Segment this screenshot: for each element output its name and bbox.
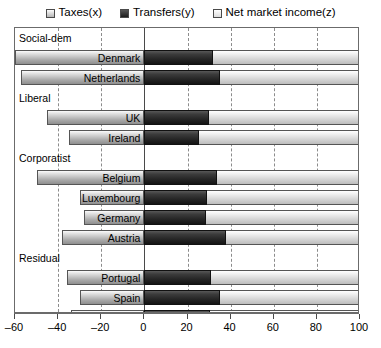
x-tick-label: 80 [310, 321, 322, 333]
x-axis: –60–40–20020406080100 [14, 313, 359, 315]
country-label: Luxembourg [82, 192, 140, 204]
bar-row: Spain [15, 288, 358, 308]
legend-label: Transfers(y) [133, 7, 195, 19]
x-tick--60 [14, 314, 15, 319]
country-label: Netherlands [84, 72, 141, 84]
legend-label: Net market income(z) [226, 7, 336, 19]
group-row-residual: Residual [15, 248, 358, 268]
x-tick-60 [273, 314, 274, 319]
group-label: Social-dem [19, 32, 72, 44]
group-row-corporatist: Corporatist [15, 148, 358, 168]
bar-row: UK [15, 108, 358, 128]
bar-transfers [144, 170, 216, 185]
bar-transfers [144, 210, 205, 225]
legend-label: Taxes(x) [59, 7, 102, 19]
x-tick-label: –60 [5, 321, 23, 333]
bar-taxes: Denmark [15, 50, 144, 65]
bar-taxes: Austria [62, 230, 144, 245]
bar-taxes: Portugal [67, 270, 145, 285]
country-label: Ireland [108, 132, 140, 144]
bar-transfers [144, 270, 211, 285]
bar-row: Denmark [15, 48, 358, 68]
group-label: Corporatist [19, 152, 70, 164]
bar-row: Luxembourg [15, 188, 358, 208]
bar-row: Ireland [15, 128, 358, 148]
country-label: Spain [114, 292, 141, 304]
country-label: Austria [108, 232, 141, 244]
group-row-social-dem: Social-dem [15, 28, 358, 48]
bar-row: Austria [15, 228, 358, 248]
bar-transfers [144, 290, 219, 305]
x-tick-label: 60 [267, 321, 279, 333]
country-label: Denmark [98, 52, 141, 64]
group-row-liberal: Liberal [15, 88, 358, 108]
x-tick-label: –20 [91, 321, 109, 333]
legend-swatch-net-icon [213, 9, 222, 18]
legend-swatch-transfers-icon [120, 9, 129, 18]
bar-row: Portugal [15, 268, 358, 288]
bar-taxes: UK [47, 110, 144, 125]
bar-transfers [144, 70, 219, 85]
bar-taxes: Ireland [69, 130, 144, 145]
legend-item-transfers[interactable]: Transfers(y) [120, 7, 195, 19]
bar-transfers [144, 190, 207, 205]
bar-taxes: Belgium [37, 170, 145, 185]
x-tick-0 [143, 314, 144, 319]
bar-row: Netherlands [15, 68, 358, 88]
group-label: Liberal [19, 92, 51, 104]
country-label: UK [126, 112, 141, 124]
bar-transfers [144, 50, 213, 65]
bar-taxes: Netherlands [21, 70, 144, 85]
chart-container: Taxes(x)Transfers(y)Net market income(z)… [0, 0, 381, 348]
x-tick-label: –40 [48, 321, 66, 333]
x-tick-80 [316, 314, 317, 319]
legend-swatch-taxes-icon [46, 9, 55, 18]
country-label: Belgium [102, 172, 140, 184]
bar-transfers [144, 110, 209, 125]
bar-taxes: Germany [84, 210, 144, 225]
x-tick-20 [187, 314, 188, 319]
plot-area: Social-demDenmarkNetherlandsLiberalUKIre… [14, 27, 359, 313]
chart-legend: Taxes(x)Transfers(y)Net market income(z) [0, 4, 381, 22]
bar-taxes: Spain [80, 290, 145, 305]
bar-taxes: Luxembourg [80, 190, 145, 205]
x-tick--40 [57, 314, 58, 319]
x-tick-label: 40 [224, 321, 236, 333]
country-label: Germany [97, 212, 140, 224]
x-tick--20 [100, 314, 101, 319]
x-tick-label: 0 [140, 321, 146, 333]
x-tick-40 [230, 314, 231, 319]
x-tick-label: 20 [180, 321, 192, 333]
bar-row: Germany [15, 208, 358, 228]
bar-transfers [144, 130, 199, 145]
country-label: Portugal [101, 272, 140, 284]
x-tick-label: 100 [350, 321, 368, 333]
legend-item-net[interactable]: Net market income(z) [213, 7, 336, 19]
x-tick-100 [359, 314, 360, 319]
bar-transfers [144, 230, 226, 245]
group-label: Residual [19, 252, 60, 264]
bar-row: Belgium [15, 168, 358, 188]
legend-item-taxes[interactable]: Taxes(x) [46, 7, 102, 19]
